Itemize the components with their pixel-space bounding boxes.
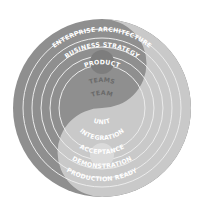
yin-yang-ring-diagram: ENTERPRISE ARCHITECTURE BUSINESS STRATEG… <box>0 0 204 218</box>
outer-circle <box>0 0 204 218</box>
